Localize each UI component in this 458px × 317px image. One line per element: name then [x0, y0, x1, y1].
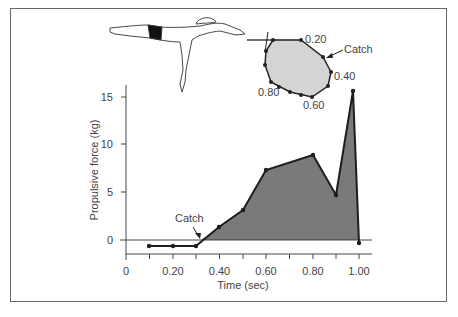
- y-tick-5: 5: [107, 186, 113, 198]
- x-axis-title: Time (sec): [217, 279, 269, 291]
- inset-label-060: 0.60: [303, 99, 324, 111]
- x-tick-0: 0: [123, 265, 129, 277]
- swimmer-illustration: [110, 18, 245, 92]
- catch-arrowhead: [195, 233, 201, 239]
- y-tick-10: 10: [101, 138, 113, 150]
- force-area: [201, 91, 359, 243]
- y-tick-15: 15: [101, 91, 113, 103]
- y-tick-0: 0: [107, 234, 113, 246]
- x-tick-080: 0.80: [302, 265, 323, 277]
- x-tick-040: 0.40: [209, 265, 230, 277]
- inset-label-catch: Catch: [344, 43, 373, 55]
- catch-annotation: Catch: [175, 212, 204, 224]
- x-tick-060: 0.60: [255, 265, 276, 277]
- chart-svg: 0.20 Catch 0.40 0.60 0.80 15 10 5: [0, 0, 458, 317]
- x-tick-100: 1.00: [348, 265, 369, 277]
- inset-label-040: 0.40: [334, 70, 355, 82]
- inset-label-020: 0.20: [305, 33, 326, 45]
- x-tick-020: 0.20: [162, 265, 183, 277]
- y-axis-title: Propulsive force (kg): [88, 120, 100, 221]
- inset-label-080: 0.80: [258, 86, 279, 98]
